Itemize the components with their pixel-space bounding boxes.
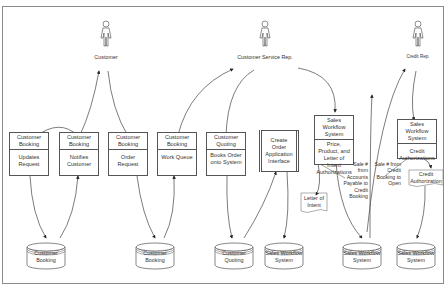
- actor-customer-icon: [101, 21, 111, 46]
- process-body: Notifies Customer: [60, 150, 98, 172]
- process-notifies-customer: Customer Booking Notifies Customer: [59, 132, 99, 176]
- process-header: Customer Booking: [109, 133, 147, 150]
- actor-customer-label: Customer: [86, 54, 126, 60]
- process-credit-authorizations: Sales Workflow System Credit Authorizati…: [397, 119, 437, 159]
- database-label: Customer Booking: [137, 250, 173, 264]
- process-body: Order Request: [109, 150, 147, 172]
- process-body: Work Queue: [158, 150, 196, 165]
- process-header: Customer Booking: [10, 133, 48, 150]
- database-label: Sales Workflow System: [397, 250, 435, 264]
- document-credit-authorization-label: Credit Authorization: [409, 171, 443, 185]
- database-label: Sales Workflow System: [343, 250, 381, 264]
- process-header: Customer Booking: [158, 133, 196, 150]
- process-create-order-interface: Create Order Application Interface: [259, 130, 299, 172]
- process-price-product-authorizations: Sales Workflow System Price, Product, an…: [314, 115, 354, 165]
- database-label: Sales Workflow System: [265, 250, 303, 264]
- note-sale-from-accounts-payable: Sale # from Accounts Payable to Credit B…: [342, 161, 368, 199]
- process-updates-request: Customer Booking Updates Request: [9, 132, 49, 176]
- actor-credit-icon: [413, 21, 423, 46]
- process-header: Sales Workflow System: [315, 116, 353, 140]
- process-header: Sales Workflow System: [398, 120, 436, 144]
- note-sale-from-credit-booking: Sale # from Credit Booking to Open: [373, 161, 401, 187]
- process-order-request: Customer Booking Order Request: [108, 132, 148, 176]
- actor-csr-icon: [260, 21, 270, 46]
- process-body: Updates Request: [10, 150, 48, 172]
- process-body: Create Order Application Interface: [262, 131, 296, 169]
- database-label: Customer Booking: [28, 250, 64, 264]
- document-letter-of-intent-label: Letter of Intent: [303, 195, 325, 209]
- process-body: Books Order onto System: [207, 150, 245, 170]
- database-label: Customer Quoting: [216, 250, 252, 264]
- process-header: Customer Booking: [60, 133, 98, 150]
- process-work-queue: Customer Booking Work Queue: [157, 132, 197, 176]
- actor-csr-label: Customer Service Rep.: [235, 54, 295, 60]
- actor-credit-label: Credit Rep.: [400, 54, 436, 59]
- process-header: Customer Quoting: [207, 133, 245, 150]
- process-body: Credit Authorizations: [398, 144, 436, 166]
- process-books-order: Customer Quoting Books Order onto System: [206, 132, 246, 176]
